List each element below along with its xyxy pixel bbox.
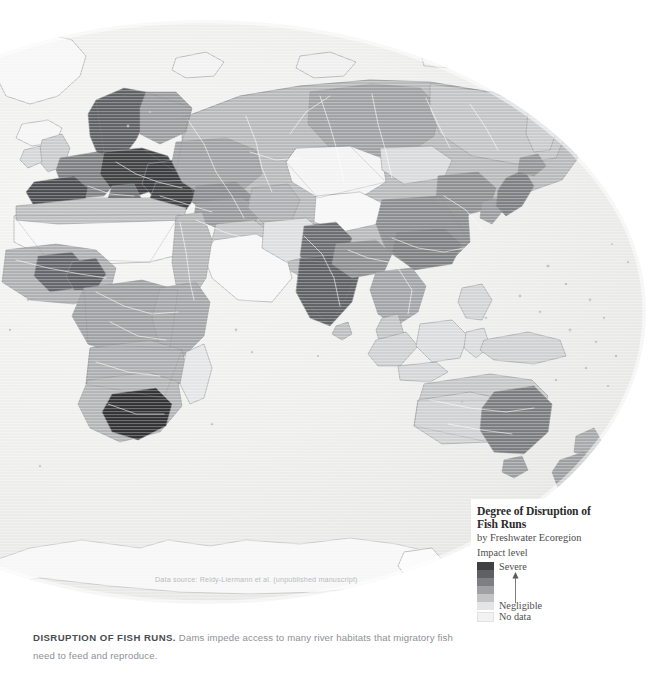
legend-label-no-data: No data bbox=[499, 611, 531, 622]
legend-label-negligible: Negligible bbox=[499, 600, 542, 611]
data-source-credit: Data source: Reidy-Liermann et al. (unpu… bbox=[155, 575, 358, 584]
legend-subtitle: by Freshwater Ecoregion bbox=[477, 532, 609, 544]
legend-nodata-swatch bbox=[477, 612, 494, 622]
legend-label-severe: Severe bbox=[499, 561, 527, 572]
map-legend: Degree of Disruption of Fish Runs by Fre… bbox=[471, 499, 610, 626]
legend-scale-label: Impact level bbox=[477, 547, 528, 558]
figure-disruption-of-fish-runs: Data source: Reidy-Liermann et al. (unpu… bbox=[0, 0, 652, 678]
figure-caption: DISRUPTION OF FISH RUNS. Dams impede acc… bbox=[33, 629, 463, 665]
caption-headline: DISRUPTION OF FISH RUNS. bbox=[33, 632, 176, 643]
legend-color-ramp bbox=[477, 562, 494, 610]
legend-title: Degree of Disruption of Fish Runs bbox=[477, 505, 605, 531]
